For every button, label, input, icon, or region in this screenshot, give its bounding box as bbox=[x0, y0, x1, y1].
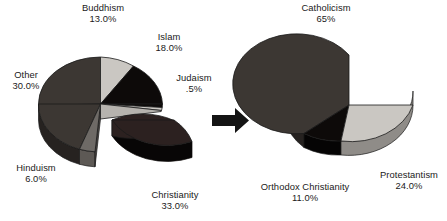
label-protestantism-name: Protestantism bbox=[371, 169, 447, 180]
label-buddhism-percent: 13.0% bbox=[62, 13, 144, 24]
label-buddhism: Buddhism 13.0% bbox=[62, 2, 144, 24]
label-islam: Islam 18.0% bbox=[139, 31, 199, 53]
label-orthodox-christianity: Orthodox Christianity 11.0% bbox=[247, 181, 363, 203]
label-judaism: Judaism .5% bbox=[164, 72, 224, 94]
label-other-percent: 30.0% bbox=[0, 80, 52, 91]
label-islam-percent: 18.0% bbox=[139, 42, 199, 53]
label-judaism-percent: .5% bbox=[164, 83, 224, 94]
label-buddhism-name: Buddhism bbox=[62, 2, 144, 13]
label-hinduism-name: Hinduism bbox=[4, 162, 68, 173]
label-other-name: Other bbox=[0, 69, 52, 80]
figure-two-pie-charts: Buddhism 13.0% Islam 18.0% Judaism .5% O… bbox=[0, 0, 447, 221]
right-pie-chart bbox=[233, 34, 413, 156]
label-hinduism-percent: 6.0% bbox=[4, 173, 68, 184]
label-orthodox-christianity-percent: 11.0% bbox=[247, 192, 363, 203]
label-christianity-percent: 33.0% bbox=[134, 200, 216, 211]
label-other: Other 30.0% bbox=[0, 69, 52, 91]
label-protestantism-percent: 24.0% bbox=[371, 180, 447, 191]
label-judaism-name: Judaism bbox=[164, 72, 224, 83]
label-catholicism-name: Catholicism bbox=[279, 2, 373, 13]
label-catholicism: Catholicism 65% bbox=[279, 2, 373, 24]
label-hinduism: Hinduism 6.0% bbox=[4, 162, 68, 184]
label-protestantism: Protestantism 24.0% bbox=[371, 169, 447, 191]
label-christianity: Christianity 33.0% bbox=[134, 189, 216, 211]
label-orthodox-christianity-name: Orthodox Christianity bbox=[247, 181, 363, 192]
label-catholicism-percent: 65% bbox=[279, 13, 373, 24]
label-islam-name: Islam bbox=[139, 31, 199, 42]
label-christianity-name: Christianity bbox=[134, 189, 216, 200]
